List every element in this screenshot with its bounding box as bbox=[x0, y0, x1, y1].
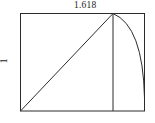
height-label: 1 bbox=[0, 58, 9, 63]
diagram-canvas bbox=[0, 0, 155, 123]
arc-curve bbox=[113, 14, 145, 99]
golden-ratio-diagram: 1.618 1 bbox=[0, 0, 155, 123]
diagonal-line bbox=[21, 14, 114, 112]
outer-rectangle bbox=[21, 14, 145, 112]
width-label: 1.618 bbox=[74, 1, 96, 11]
